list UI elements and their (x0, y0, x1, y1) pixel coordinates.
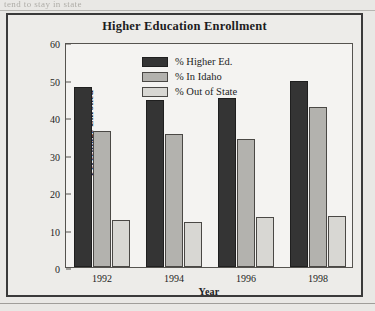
legend-swatch-icon (142, 87, 168, 97)
y-axis-tick-mark (66, 81, 71, 82)
legend-swatch-icon (142, 72, 168, 82)
y-axis-tick-mark (66, 269, 71, 270)
bar-group (74, 44, 130, 267)
bar (218, 98, 236, 267)
y-axis-tick-label: 40 (50, 114, 66, 125)
chart-legend: % Higher Ed.% In Idaho% Out of State (142, 56, 237, 101)
y-axis-tick-mark (66, 119, 71, 120)
x-axis-tick-label: 1998 (308, 273, 328, 284)
bar (237, 139, 255, 267)
bar-group (290, 44, 346, 267)
legend-item: % In Idaho (142, 71, 237, 82)
legend-swatch-icon (142, 57, 168, 67)
chart-title: Higher Education Enrollment (8, 19, 361, 34)
y-axis-tick-label: 0 (55, 264, 66, 275)
bar (328, 216, 346, 267)
y-axis-tick-mark (66, 156, 71, 157)
bar (290, 81, 308, 267)
scanned-text-fragment: tend to stay in state (4, 0, 304, 10)
bar (112, 220, 130, 267)
page-rule-top (0, 10, 375, 11)
y-axis-tick-label: 60 (50, 39, 66, 50)
legend-item: % Higher Ed. (142, 56, 237, 67)
x-axis-tick-label: 1992 (92, 273, 112, 284)
x-axis-title: Year (66, 286, 352, 297)
y-axis-tick-mark (66, 44, 71, 45)
bar (146, 100, 164, 267)
chart-figure-frame: Higher Education Enrollment Percentage E… (6, 13, 363, 297)
y-axis-tick-mark (66, 231, 71, 232)
y-axis-tick-label: 30 (50, 151, 66, 162)
bar (184, 222, 202, 267)
bar (74, 87, 92, 267)
y-axis-tick-mark (66, 194, 71, 195)
legend-label: % In Idaho (175, 71, 222, 82)
y-axis-tick-label: 50 (50, 76, 66, 87)
x-axis-tick-label: 1996 (236, 273, 256, 284)
legend-item: % Out of State (142, 86, 237, 97)
bar (165, 134, 183, 267)
y-axis-tick-label: 10 (50, 226, 66, 237)
page-rule-bottom (0, 303, 375, 304)
bar (309, 107, 327, 267)
bar (256, 217, 274, 267)
y-axis-tick-label: 20 (50, 189, 66, 200)
plot-frame: Percentage Enrolled Year % Higher Ed.% I… (65, 43, 353, 268)
legend-label: % Out of State (175, 86, 237, 97)
legend-label: % Higher Ed. (175, 56, 232, 67)
bar (93, 131, 111, 267)
x-axis-tick-label: 1994 (164, 273, 184, 284)
